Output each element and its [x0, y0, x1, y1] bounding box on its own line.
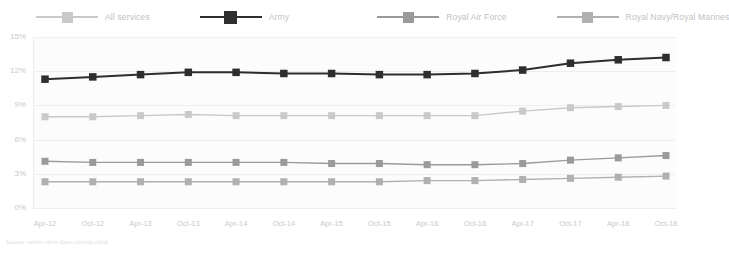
data-point-marker	[185, 111, 192, 118]
data-point-marker	[567, 59, 575, 67]
data-point-marker	[471, 177, 478, 184]
data-point-marker	[280, 159, 287, 166]
data-point-marker	[519, 176, 526, 183]
data-point-marker	[280, 178, 287, 185]
data-point-marker	[89, 73, 97, 81]
data-point-marker	[137, 112, 144, 119]
x-axis-tick-label: Oct-17	[559, 219, 582, 229]
data-point-marker	[615, 174, 622, 181]
x-axis-tick-label: Apr-18	[607, 219, 630, 229]
data-point-marker	[42, 178, 49, 185]
data-point-marker	[328, 160, 335, 167]
x-axis-tick-label: Oct-15	[368, 219, 391, 229]
data-point-marker	[89, 178, 96, 185]
data-point-marker	[280, 70, 288, 78]
data-point-marker	[233, 112, 240, 119]
data-point-marker	[424, 112, 431, 119]
data-point-marker	[137, 159, 144, 166]
legend-key-royal-air-force	[377, 11, 439, 23]
x-axis-tick-label: Oct-14	[273, 219, 296, 229]
x-axis-tick-label: Apr-15	[320, 219, 343, 229]
x-axis-tick-label: Oct-12	[82, 219, 105, 229]
data-point-marker	[185, 178, 192, 185]
data-point-marker	[376, 160, 383, 167]
legend-item-all-services[interactable]: All services	[36, 6, 150, 28]
legend-label-royal-air-force: Royal Air Force	[446, 12, 506, 22]
legend-item-royal-navy-royal-marines[interactable]: Royal Navy/Royal Marines	[557, 6, 729, 28]
x-axis-tick-label: Oct-18	[655, 219, 678, 229]
data-point-marker	[328, 178, 335, 185]
y-axis-tick-label: 9%	[14, 101, 26, 109]
data-point-marker	[376, 112, 383, 119]
chart-legend: All services Army Royal Air Force Royal …	[0, 6, 681, 28]
data-point-marker	[663, 152, 670, 159]
data-point-marker	[280, 112, 287, 119]
data-point-marker	[519, 66, 527, 74]
legend-key-army	[200, 11, 262, 23]
legend-marker-icon	[403, 12, 414, 23]
legend-item-army[interactable]: Army	[200, 6, 289, 28]
data-point-marker	[614, 56, 622, 64]
data-point-marker	[137, 71, 145, 79]
x-axis-tick-label: Apr-16	[416, 219, 439, 229]
x-axis-tick-label: Apr-14	[225, 219, 248, 229]
x-axis-tick-label: Apr-13	[129, 219, 152, 229]
data-point-marker	[519, 108, 526, 115]
legend-label-army: Army	[269, 12, 289, 22]
x-axis-tick-label: Oct-13	[177, 219, 200, 229]
y-axis-tick-label: 12%	[10, 67, 26, 75]
y-axis-tick-label: 6%	[14, 136, 26, 144]
data-point-marker	[424, 161, 431, 168]
data-point-marker	[233, 178, 240, 185]
data-point-marker	[567, 104, 574, 111]
data-point-marker	[567, 175, 574, 182]
data-point-marker	[471, 161, 478, 168]
data-point-marker	[328, 112, 335, 119]
data-point-marker	[376, 178, 383, 185]
data-point-marker	[89, 159, 96, 166]
y-axis-tick-labels: 0%3%6%9%12%15%	[0, 37, 30, 208]
data-point-marker	[424, 177, 431, 184]
y-axis-tick-label: 3%	[14, 170, 26, 178]
source-note: Source: reform.uk/rn-Spec.com/sp.uk/uk	[6, 239, 108, 245]
data-point-marker	[663, 102, 670, 109]
x-axis-tick-label: Apr-17	[511, 219, 534, 229]
data-point-marker	[137, 178, 144, 185]
data-point-marker	[42, 113, 49, 120]
plot-area	[33, 37, 676, 208]
legend-key-royal-navy-royal-marines	[557, 11, 619, 23]
legend-marker-icon	[62, 12, 73, 23]
data-point-marker	[471, 70, 479, 78]
data-point-marker	[663, 173, 670, 180]
legend-marker-icon	[224, 11, 237, 24]
legend-key-all-services	[36, 11, 98, 23]
data-point-marker	[615, 154, 622, 161]
data-point-marker	[233, 159, 240, 166]
data-point-marker	[376, 71, 384, 79]
y-axis-tick-label: 0%	[14, 204, 26, 212]
data-point-marker	[567, 157, 574, 164]
series-royal-navy-royal-marines	[42, 173, 670, 186]
data-point-marker	[423, 71, 431, 79]
legend-item-royal-air-force[interactable]: Royal Air Force	[377, 6, 506, 28]
data-point-marker	[185, 159, 192, 166]
data-point-marker	[232, 69, 240, 77]
series-royal-air-force	[42, 152, 670, 168]
y-axis-tick-label: 15%	[10, 33, 26, 41]
data-point-marker	[185, 69, 193, 77]
series-all-services	[42, 102, 670, 120]
data-point-marker	[89, 113, 96, 120]
data-point-marker	[519, 160, 526, 167]
legend-label-all-services: All services	[105, 12, 150, 22]
data-point-marker	[41, 75, 49, 83]
series-army	[41, 54, 670, 83]
data-point-marker	[662, 54, 670, 62]
gridline	[33, 208, 676, 209]
data-point-marker	[42, 158, 49, 165]
legend-marker-icon	[582, 12, 593, 23]
data-point-marker	[328, 70, 336, 78]
data-point-marker	[471, 112, 478, 119]
series-layer	[33, 37, 676, 208]
x-axis-tick-label: Apr-12	[34, 219, 57, 229]
